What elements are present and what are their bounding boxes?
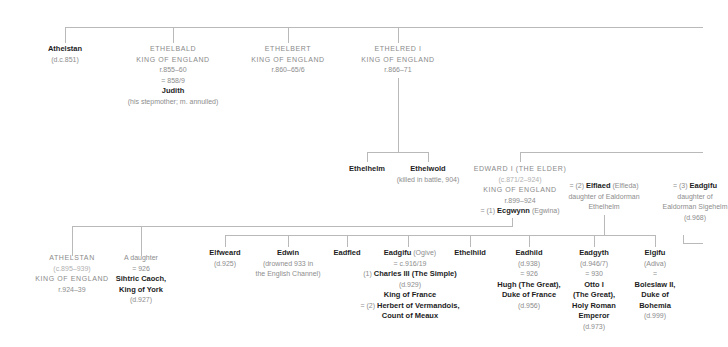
spouse-dates: (d.927) <box>116 295 166 306</box>
person-name: A daughter <box>116 253 166 264</box>
person-note: (killed in battle, 904) <box>397 175 460 186</box>
spouse-parentage: daughter of <box>663 192 728 203</box>
spouse-title-2: Bohemia <box>635 301 676 312</box>
person-ethelbert: ETHELBERT KING OF ENGLAND r.860–65/6 <box>251 44 325 76</box>
person-athelstan-elder: Athelstan (d.c.851) <box>48 44 82 65</box>
ecgwynn-descent <box>512 218 513 226</box>
person-ethelhelm: Ethelhelm <box>349 164 385 175</box>
spouse-name: Charles III (The Simple) <box>374 269 457 278</box>
person-name: Eadhild <box>497 248 560 259</box>
eadgifu3-descent <box>683 235 684 243</box>
person-title: KING OF ENGLAND <box>474 185 567 196</box>
eadgifu-drop <box>408 235 409 247</box>
person-dates: (d.938) <box>497 259 560 270</box>
spouse-title: Count of Meaux <box>360 311 459 322</box>
person-alt-name: (Adiva) <box>635 259 676 270</box>
spouse-name: Boleslaw II, <box>635 280 676 291</box>
ethelred-drop <box>398 27 399 43</box>
marriage-sign: = <box>635 269 676 280</box>
person-reign: r.899–924 <box>474 196 567 207</box>
person-reign: r.866–71 <box>361 65 435 76</box>
spouse-dates: (d.968) <box>663 213 728 224</box>
marriage-prefix: = (1) <box>480 207 495 214</box>
person-dates: (d.925) <box>209 259 240 270</box>
ethelwold-drop <box>428 152 429 162</box>
person-reign: r.855–60 <box>128 65 219 76</box>
spouse-name: Sihtric Caoch, <box>116 274 166 285</box>
spouse-2: = (2) Herbert of Vermandois, <box>360 301 459 312</box>
marriage-prefix: = (2) <box>569 182 584 189</box>
person-title: KING OF ENGLAND <box>251 55 325 66</box>
spouse-heading: = (3) Eadgifu <box>663 181 728 192</box>
person-note-2: the English Channel) <box>256 269 321 280</box>
person-name: Eadfled <box>333 248 360 259</box>
spouse-name: Otto I <box>572 280 616 291</box>
spouse-alt-name: (Elfleda) <box>613 182 639 189</box>
person-daughter: A daughter = 926 Sihtric Caoch, King of … <box>116 253 166 306</box>
person-reign: r.860–65/6 <box>251 65 325 76</box>
spouse-title: Duke of France <box>497 290 560 301</box>
person-eadgifu: Eadgifu (Ogive) = c.916/19 (1) Charles I… <box>360 248 459 322</box>
ethelbert-drop <box>288 27 289 43</box>
spouse-heading: = (2) Elflaed (Elfleda) <box>568 181 639 192</box>
marriage-date: = c.916/19 <box>360 259 459 270</box>
spouse-name: Judith <box>128 86 219 97</box>
ethelbald-drop <box>173 27 174 43</box>
person-name: ETHELBERT <box>251 44 325 55</box>
spouse-elflaed: = (2) Elflaed (Elfleda) daughter of Eald… <box>568 181 639 213</box>
person-dates: (d.946/7) <box>572 259 616 270</box>
person-ethelred: ETHELRED I KING OF ENGLAND r.866–71 <box>361 44 435 76</box>
person-name: Eadgyth <box>572 248 616 259</box>
marriage-1: = (1) Ecgwynn (Egwina) <box>474 206 567 217</box>
spouse-1: (1) Charles III (The Simple) <box>360 269 459 280</box>
person-ethelhild: Ethelhild <box>454 248 486 259</box>
spouse-name: Herbert of Vermandois, <box>377 301 460 310</box>
elflaed-descent <box>604 215 605 235</box>
eadgifu3-children-line <box>683 243 703 244</box>
person-name: Ethelhelm <box>349 164 385 175</box>
spouse-alt-name: (Egwina) <box>532 207 560 214</box>
spouse-parentage: daughter of Ealdorman <box>568 192 639 203</box>
person-eadhild: Eadhild (d.938) = 926 Hugh (The Great), … <box>497 248 560 311</box>
person-title: KING OF ENGLAND <box>35 274 109 285</box>
spouse-name: Eadgifu <box>690 181 718 190</box>
athelstan-drop <box>72 226 73 256</box>
person-dates: (d.c.851) <box>48 55 82 66</box>
person-title: KING OF ENGLAND <box>128 55 219 66</box>
person-name: Ethelwold <box>397 164 460 175</box>
edward-drop <box>520 152 521 162</box>
person-name: Elfweard <box>209 248 240 259</box>
spouse-title: King of York <box>116 285 166 296</box>
ethelred-children-line <box>367 152 428 153</box>
person-name: EDWARD I (THE ELDER) <box>474 164 567 175</box>
spouse-note: (his stepmother; m. annulled) <box>128 97 219 108</box>
person-name: ETHELBALD <box>128 44 219 55</box>
person-edward: EDWARD I (THE ELDER) (c.871/2–924) KING … <box>474 164 567 217</box>
person-dates: (c.871/2–924) <box>474 175 567 186</box>
eadfled-drop <box>347 235 348 247</box>
person-edwin: Edwin (drowned 933 in the English Channe… <box>256 248 321 280</box>
eadgyth-drop <box>594 235 595 247</box>
person-name: Ethelhild <box>454 248 486 259</box>
daughter-drop <box>141 226 142 256</box>
person-name: Edwin <box>256 248 321 259</box>
person-alt-name: (Ogive) <box>413 249 436 256</box>
spouse-epithet: (The Great), <box>572 290 616 301</box>
person-reign: r.924–39 <box>35 285 109 296</box>
spouse-title: King of France <box>360 290 459 301</box>
spouse-eadgifu: = (3) Eadgifu daughter of Ealdorman Sige… <box>663 181 728 223</box>
athelstan-elder-drop <box>65 27 66 43</box>
person-title: KING OF ENGLAND <box>361 55 435 66</box>
marriage-date: = 930 <box>572 269 616 280</box>
edward-spouses-line <box>520 152 703 153</box>
spouse-prefix: = (2) <box>360 302 375 309</box>
spouse-dates: (d.999) <box>635 311 676 322</box>
marriage-date: = 926 <box>497 269 560 280</box>
elfweard-drop <box>225 235 226 247</box>
marriage-date: = 926 <box>116 264 166 275</box>
marriage-date: = 858/9 <box>128 76 219 87</box>
spouse-prefix: (1) <box>363 270 372 277</box>
spouse-dates: (d.973) <box>572 322 616 333</box>
person-name: Elgifu <box>635 248 676 259</box>
person-name: Athelstan <box>48 44 82 55</box>
